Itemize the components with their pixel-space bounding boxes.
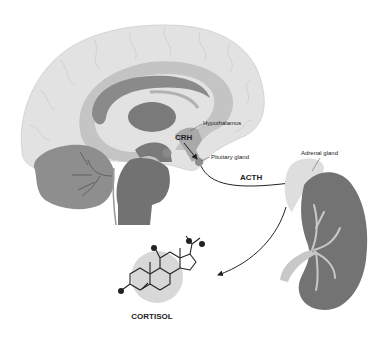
cerebellum xyxy=(34,145,114,209)
cortisol-arrow xyxy=(218,207,286,275)
pituitary-label: Pituitary gland xyxy=(211,154,249,160)
hydroxyl-side-atom xyxy=(199,241,205,247)
cortisol-label: CORTISOL xyxy=(131,312,172,321)
hydroxyl-atom xyxy=(151,245,157,251)
mammillary-body xyxy=(163,149,172,158)
brainstem-edge xyxy=(113,168,116,225)
kidney xyxy=(299,172,368,310)
ketone-oxygen xyxy=(186,238,192,244)
molecule-background xyxy=(131,251,183,303)
hpa-axis-diagram: Hypothalamus CRH Pituitary gland ACTH Ad… xyxy=(0,0,386,338)
oxygen-atom xyxy=(118,288,124,294)
crh-label: CRH xyxy=(175,133,193,142)
acth-label: ACTH xyxy=(240,173,262,182)
adrenal-label: Adrenal gland xyxy=(301,150,338,156)
brainstem xyxy=(117,158,170,225)
thalamus xyxy=(128,102,176,132)
hypothalamus-label: Hypothalamus xyxy=(203,120,241,126)
kidney-group: Adrenal gland xyxy=(280,150,367,310)
cortisol-molecule: CORTISOL xyxy=(118,236,205,321)
pituitary-gland xyxy=(195,158,203,166)
